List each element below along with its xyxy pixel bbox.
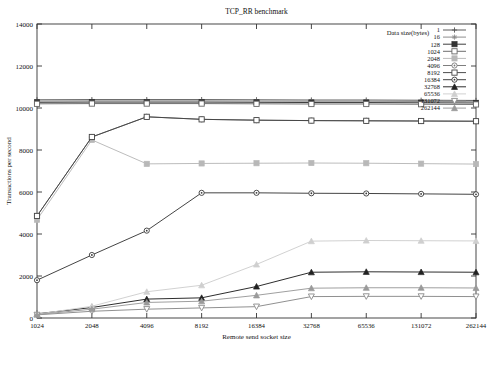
- legend-label: 128: [430, 41, 440, 48]
- y-tick-label: 4000: [19, 231, 34, 239]
- marker-open-square: [254, 101, 259, 106]
- marker-open-square: [419, 118, 424, 123]
- marker-circle-dot: [454, 65, 456, 67]
- legend-label: 65536: [424, 90, 440, 97]
- marker-open-square: [89, 101, 94, 106]
- marker-circle-dot: [146, 230, 148, 232]
- marker-square: [254, 161, 259, 166]
- marker-open-square: [364, 118, 369, 123]
- marker-circle-dot: [310, 192, 312, 194]
- marker-square: [364, 161, 369, 166]
- marker-open-square: [199, 101, 204, 106]
- marker-circle-dot: [201, 192, 203, 194]
- y-axis-label: Transactions per second: [5, 137, 13, 205]
- marker-circle-dot: [454, 79, 456, 81]
- legend-label: 262144: [421, 104, 441, 111]
- plot-frame: [37, 24, 476, 318]
- y-tick-label: 10000: [16, 105, 34, 113]
- marker-open-square: [452, 49, 457, 54]
- marker-circle-dot: [420, 193, 422, 195]
- legend-label: 1024: [427, 48, 441, 55]
- marker-open-square: [34, 101, 39, 106]
- y-tick-label: 12000: [16, 63, 34, 71]
- marker-open-square: [144, 101, 149, 106]
- marker-circle-dot: [365, 193, 367, 195]
- marker-open-square: [452, 70, 457, 75]
- x-tick-label: 8192: [195, 322, 209, 329]
- x-tick-label: 65536: [358, 322, 376, 329]
- x-tick-label: 2048: [85, 322, 99, 329]
- x-tick-label: 16384: [248, 322, 266, 329]
- marker-circle-dot: [36, 279, 38, 281]
- y-tick-label: 2000: [19, 273, 34, 281]
- marker-circle-dot: [475, 193, 477, 195]
- chart-figure: TCP_RR benchmark020004000600080001000012…: [0, 0, 498, 366]
- marker-circle-dot: [256, 192, 258, 194]
- marker-circle-dot: [91, 254, 93, 256]
- marker-open-square: [254, 118, 259, 123]
- marker-open-square: [309, 118, 314, 123]
- x-tick-label: 32768: [303, 322, 321, 329]
- marker-open-square: [89, 134, 94, 139]
- marker-open-square: [199, 117, 204, 122]
- marker-open-square: [473, 102, 478, 107]
- marker-open-square: [144, 114, 149, 119]
- legend-label: 4096: [427, 62, 440, 69]
- marker-open-square: [309, 101, 314, 106]
- marker-square: [144, 161, 149, 166]
- legend-title: Data size(bytes): [387, 29, 430, 37]
- marker-square: [452, 42, 457, 47]
- x-tick-label: 4096: [140, 322, 154, 329]
- x-tick-label: 262144: [466, 322, 487, 329]
- x-tick-label: 1024: [30, 322, 44, 329]
- marker-square: [452, 56, 457, 61]
- marker-square: [473, 161, 478, 166]
- y-tick-label: 14000: [16, 21, 34, 29]
- y-tick-label: 6000: [19, 189, 34, 197]
- marker-square: [419, 161, 424, 166]
- legend-label: 1: [437, 26, 440, 33]
- marker-square: [199, 161, 204, 166]
- marker-open-square: [364, 101, 369, 106]
- legend-label: 2048: [427, 55, 440, 62]
- legend-label: 16384: [424, 76, 441, 83]
- marker-open-square: [473, 119, 478, 124]
- marker-square: [309, 160, 314, 165]
- tcp-rr-benchmark-line-chart: TCP_RR benchmark020004000600080001000012…: [0, 0, 498, 366]
- legend-label: 131072: [421, 97, 440, 104]
- x-tick-label: 131072: [411, 322, 432, 329]
- legend-label: 32768: [424, 83, 440, 90]
- legend-label: 16: [434, 33, 440, 40]
- y-tick-label: 8000: [19, 147, 34, 155]
- legend-label: 8192: [427, 69, 440, 76]
- x-axis-label: Remote send socket size: [222, 333, 291, 341]
- chart-title: TCP_RR benchmark: [225, 7, 288, 16]
- marker-open-square: [34, 213, 39, 218]
